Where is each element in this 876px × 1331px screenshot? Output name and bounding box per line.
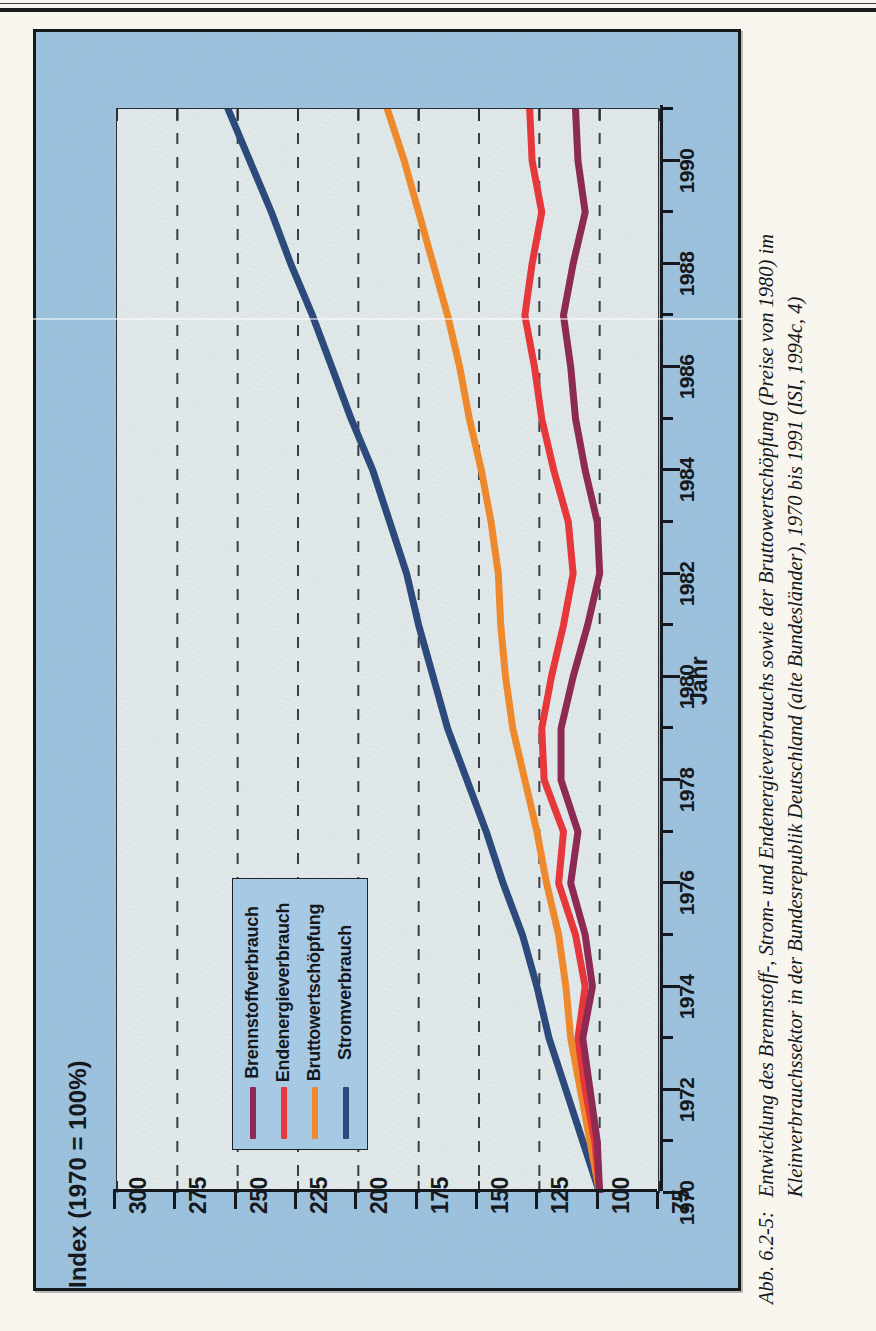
year-axis-title: Jahr	[686, 656, 713, 705]
value-axis-tick	[656, 1192, 659, 1209]
value-axis-label: 100	[608, 1177, 635, 1214]
figure-caption: Abb. 6.2-5: Entwicklung des Brennstoff-,…	[752, 24, 860, 1304]
value-axis-label: 300	[125, 1177, 152, 1214]
value-axis-label: 200	[366, 1177, 393, 1214]
value-axis-tick	[113, 1192, 116, 1209]
value-axis-tick	[415, 1192, 418, 1209]
series-line-endenergieverbrauch	[525, 109, 600, 1193]
year-axis-minor-tick	[663, 933, 673, 936]
year-axis-minor-tick	[663, 107, 673, 110]
year-axis-label: 1970	[675, 1181, 699, 1226]
legend-item: Brennstoffverbrauch	[237, 887, 268, 1143]
value-axis-tick	[354, 1192, 357, 1209]
value-axis-label: 125	[547, 1177, 574, 1214]
legend-color-swatch	[343, 1087, 349, 1139]
page-top-rule	[0, 8, 876, 12]
year-axis-minor-tick	[663, 1139, 673, 1142]
value-axis-label: 225	[306, 1177, 333, 1214]
value-axis-tick	[475, 1192, 478, 1209]
year-axis-minor-tick	[663, 830, 673, 833]
figure-panel: StromverbrauchBruttowertschöpfungEndener…	[33, 29, 741, 1291]
chart-legend: StromverbrauchBruttowertschöpfungEndener…	[232, 878, 368, 1150]
value-axis: 30027525022520017515012510075	[113, 1189, 657, 1207]
value-axis-label: 150	[487, 1177, 514, 1214]
value-axis-title: Index (1970 = 100%)	[64, 1061, 92, 1288]
year-axis-label: 1990	[675, 148, 699, 193]
year-axis: 1970197219741976197819801982198419861988…	[660, 105, 678, 1191]
legend-item-label: Brennstoffverbrauch	[242, 906, 263, 1078]
year-axis-minor-tick	[663, 417, 673, 420]
caption-text: Entwicklung des Brennstoff-, Strom- und …	[752, 57, 810, 1197]
year-axis-minor-tick	[663, 210, 673, 213]
year-axis-label: 1972	[675, 1077, 699, 1122]
value-axis-tick	[596, 1192, 599, 1209]
caption-number: Abb. 6.2-5:	[752, 1211, 810, 1304]
year-axis-minor-tick	[663, 726, 673, 729]
legend-item: Endenergieverbrauch	[268, 887, 299, 1143]
chart-canvas	[117, 109, 660, 1193]
value-axis-tick	[173, 1192, 176, 1209]
year-axis-minor-tick	[663, 1036, 673, 1039]
legend-color-swatch	[281, 1087, 287, 1139]
legend-color-swatch	[312, 1087, 318, 1139]
year-axis-label: 1982	[675, 561, 699, 606]
value-axis-label: 275	[185, 1177, 212, 1214]
value-axis-label: 250	[246, 1177, 273, 1214]
legend-color-swatch	[250, 1087, 256, 1139]
year-axis-label: 1988	[675, 251, 699, 296]
plot-area	[116, 108, 659, 1192]
value-axis-tick	[234, 1192, 237, 1209]
value-axis-label: 175	[427, 1177, 454, 1214]
legend-item: Stromverbrauch	[330, 887, 361, 1143]
year-axis-label: 1976	[675, 871, 699, 916]
legend-item-label: Bruttowertschöpfung	[304, 904, 325, 1081]
year-axis-minor-tick	[663, 520, 673, 523]
value-axis-tick	[535, 1192, 538, 1209]
year-axis-label: 1978	[675, 768, 699, 813]
year-axis-minor-tick	[663, 313, 673, 316]
legend-item-label: Stromverbrauch	[335, 925, 356, 1060]
year-axis-minor-tick	[663, 623, 673, 626]
value-axis-tick	[294, 1192, 297, 1209]
year-axis-label: 1984	[675, 458, 699, 503]
year-axis-label: 1986	[675, 355, 699, 400]
year-axis-label: 1974	[675, 974, 699, 1019]
legend-item-label: Endenergieverbrauch	[273, 903, 294, 1082]
legend-item: Bruttowertschöpfung	[299, 887, 330, 1143]
